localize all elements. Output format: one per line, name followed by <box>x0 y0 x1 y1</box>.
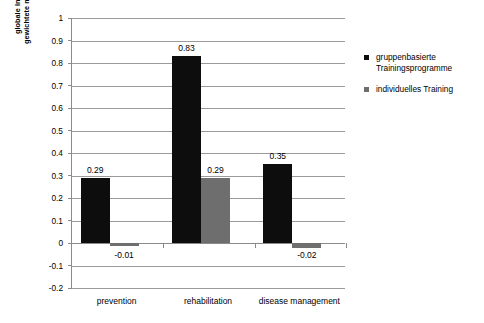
legend-swatch-icon-series-1 <box>364 87 369 92</box>
gridline-0.9 <box>72 41 345 42</box>
y-tick-mark <box>68 175 72 176</box>
bar-prevention-series-1[interactable] <box>110 243 139 246</box>
legend-item-gruppenbasierte[interactable]: gruppenbasierte Trainingsprogramme <box>364 52 482 73</box>
y-axis-title: globale Indikatoren der Lebensqualität: … <box>13 0 43 70</box>
x-tick-mark <box>163 243 164 248</box>
legend: gruppenbasierte Trainingsprogramme indiv… <box>364 52 482 106</box>
gridline-0.3 <box>72 176 345 177</box>
legend-label-series-0-line-1: gruppenbasierte <box>376 52 482 63</box>
y-tick-mark <box>68 198 72 199</box>
y-tick-mark <box>68 265 72 266</box>
bar-chart: globale Indikatoren der Lebensqualität: … <box>0 0 484 323</box>
x-axis-category-disease-management: disease management <box>259 296 340 306</box>
y-axis-title-line-2: gewichtete mittlere Effektstärken EXP vs… <box>22 0 31 70</box>
y-tick-label: 0.5 <box>51 126 63 136</box>
y-tick-mark <box>68 40 72 41</box>
legend-label-series-1: individuelles Training <box>376 84 482 95</box>
y-tick-mark <box>68 130 72 131</box>
gridline-0.4 <box>72 153 345 154</box>
y-tick-mark <box>68 243 72 244</box>
bar-value-label: -0.01 <box>114 250 133 260</box>
plot-area: 10.90.80.70.60.50.40.30.20.10-0.1-0.20.2… <box>71 18 345 288</box>
legend-label-series-1-line-1: individuelles Training <box>376 84 482 95</box>
legend-label-series-0-line-2: Trainingsprogramme <box>376 63 482 74</box>
gridline--0.1 <box>72 266 345 267</box>
gridline-0.7 <box>72 86 345 87</box>
x-axis-category-rehabilitation: rehabilitation <box>184 296 232 306</box>
bar-value-label: 0.35 <box>270 151 287 161</box>
y-tick-mark <box>68 108 72 109</box>
y-tick-label: -0.1 <box>49 261 63 271</box>
y-tick-mark <box>68 18 72 19</box>
y-tick-label: -0.2 <box>49 283 63 293</box>
bar-prevention-series-0[interactable] <box>81 178 110 243</box>
y-tick-label: 1 <box>58 13 63 23</box>
y-tick-label: 0.2 <box>51 193 63 203</box>
gridline-0.8 <box>72 63 345 64</box>
y-tick-mark <box>68 85 72 86</box>
y-tick-mark <box>68 220 72 221</box>
y-tick-mark <box>68 153 72 154</box>
y-tick-mark <box>68 63 72 64</box>
y-tick-label: 0.4 <box>51 148 63 158</box>
y-tick-label: 0.9 <box>51 36 63 46</box>
bar-disease-management-series-1[interactable] <box>292 243 321 248</box>
y-tick-label: 0.1 <box>51 216 63 226</box>
bar-value-label: 0.29 <box>87 165 104 175</box>
legend-swatch-icon-series-0 <box>364 55 369 60</box>
bar-disease-management-series-0[interactable] <box>263 164 292 243</box>
y-tick-label: 0.8 <box>51 58 63 68</box>
bar-rehabilitation-series-1[interactable] <box>201 178 230 243</box>
bar-value-label: 0.29 <box>207 165 224 175</box>
gridline--0.2 <box>72 288 345 289</box>
bar-value-label: 0.83 <box>178 43 195 53</box>
y-tick-label: 0 <box>58 238 63 248</box>
y-axis-title-line-1: globale Indikatoren der Lebensqualität: <box>13 0 22 70</box>
y-tick-label: 0.3 <box>51 171 63 181</box>
y-tick-label: 0.7 <box>51 81 63 91</box>
legend-label-series-0: gruppenbasierte Trainingsprogramme <box>376 52 482 73</box>
bar-rehabilitation-series-0[interactable] <box>172 56 201 243</box>
gridline-1 <box>72 18 345 19</box>
y-tick-label: 0.6 <box>51 103 63 113</box>
x-axis-category-prevention: prevention <box>97 296 137 306</box>
gridline-0.5 <box>72 131 345 132</box>
bar-value-label: -0.02 <box>297 250 316 260</box>
y-tick-mark <box>68 288 72 289</box>
gridline-0.6 <box>72 108 345 109</box>
legend-item-individuelles[interactable]: individuelles Training <box>364 84 482 95</box>
x-tick-mark <box>255 243 256 248</box>
x-tick-mark <box>346 243 347 248</box>
